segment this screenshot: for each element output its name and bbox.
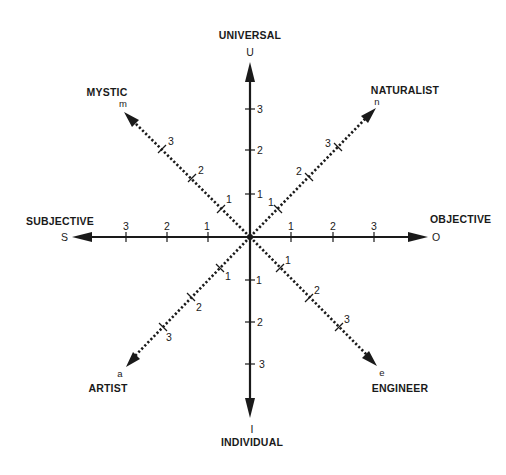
objective-letter: O (432, 231, 440, 243)
tick-label-m1: 1 (226, 193, 232, 205)
subjective-label: SUBJECTIVE (26, 215, 94, 227)
tick-label-o2: 2 (330, 220, 336, 232)
tick-label-m2: 2 (198, 164, 204, 176)
tick-label-o1: 1 (288, 220, 294, 232)
artist-axis: 1 2 3 a ARTIST (88, 237, 250, 394)
tick-label-n2: 2 (296, 165, 302, 177)
mystic-label: MYSTIC (87, 86, 128, 98)
tick-label-a3: 3 (166, 331, 172, 343)
tick-label-a2: 2 (196, 301, 202, 313)
tick-n3 (334, 143, 342, 151)
horizontal-axis: 1 2 3 1 2 3 SUBJECTIVE S OBJECTIVE O (26, 213, 491, 243)
tick-label-a1: 1 (225, 270, 231, 282)
tick-label-s2: 2 (164, 220, 170, 232)
engineer-label: ENGINEER (372, 382, 429, 394)
tick-label-m3: 3 (168, 135, 174, 147)
arrow-right-icon (408, 232, 428, 242)
individual-label: INDIVIDUAL (221, 436, 283, 448)
tick-label-i2: 2 (257, 316, 263, 328)
tick-label-s1: 1 (204, 220, 210, 232)
tick-label-i1: 1 (256, 274, 262, 286)
engineer-axis: 1 2 3 e ENGINEER (250, 237, 428, 394)
naturalist-axis: 1 2 3 NATURALIST n (250, 84, 440, 237)
engineer-letter: e (379, 367, 384, 378)
arrow-down-icon (245, 398, 255, 418)
tick-label-i3: 3 (259, 358, 265, 370)
universal-label: UNIVERSAL (219, 29, 282, 41)
arrow-down-left-icon (126, 352, 140, 367)
objective-label: OBJECTIVE (430, 213, 491, 225)
tick-a1 (216, 264, 224, 272)
individual-letter: I (251, 423, 254, 435)
tick-e3 (335, 323, 343, 331)
naturalist-letter: n (374, 96, 379, 107)
origin-point (247, 234, 253, 240)
tick-label-u1: 1 (257, 188, 263, 200)
tick-e1 (276, 264, 284, 272)
artist-label: ARTIST (88, 382, 127, 394)
tick-label-o3: 3 (371, 220, 377, 232)
tick-label-n3: 3 (325, 137, 331, 149)
subjective-letter: S (61, 231, 68, 243)
tick-label-s3: 3 (123, 220, 129, 232)
universal-letter: U (246, 46, 254, 58)
tick-label-n1: 1 (268, 196, 274, 208)
tick-label-u2: 2 (257, 144, 263, 156)
artist-letter: a (117, 368, 123, 379)
arrow-left-icon (72, 232, 92, 242)
arrow-up-right-icon (361, 108, 376, 123)
mystic-letter: m (119, 98, 127, 109)
tick-label-e3: 3 (344, 313, 350, 325)
orientation-axes-diagram: 1 2 3 1 2 3 UNIVERSAL U I INDIVIDUAL 1 2… (0, 0, 506, 475)
arrow-up-icon (245, 62, 255, 82)
mystic-axis: 1 2 3 MYSTIC m (87, 86, 250, 237)
naturalist-label: NATURALIST (371, 84, 440, 96)
tick-label-e2: 2 (314, 284, 320, 296)
tick-label-e1: 1 (285, 254, 291, 266)
tick-label-u3: 3 (257, 103, 263, 115)
